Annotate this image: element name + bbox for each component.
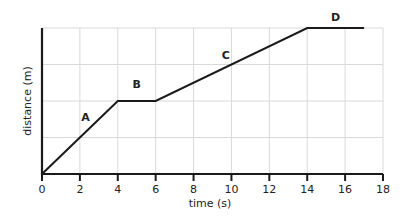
x-tick-label: 4 — [114, 183, 121, 196]
x-tick-label: 10 — [224, 183, 238, 196]
y-axis-title: distance (m) — [21, 66, 34, 135]
x-tick-label: 2 — [76, 183, 83, 196]
x-axis-title: time (s) — [189, 197, 232, 210]
x-axis-ticks: 024681012141618 — [39, 174, 391, 196]
x-tick-label: 18 — [376, 183, 390, 196]
gridlines — [42, 28, 383, 174]
segment-label-a: A — [81, 111, 90, 124]
segment-label-c: C — [222, 49, 230, 62]
distance-time-chart: 024681012141618 ABCD time (s) distance (… — [0, 0, 407, 223]
x-tick-label: 0 — [39, 183, 46, 196]
x-tick-label: 16 — [338, 183, 352, 196]
segment-label-b: B — [133, 78, 141, 91]
x-tick-label: 6 — [152, 183, 159, 196]
x-tick-label: 14 — [300, 183, 314, 196]
x-tick-label: 12 — [262, 183, 276, 196]
x-tick-label: 8 — [190, 183, 197, 196]
segment-label-d: D — [331, 11, 340, 24]
